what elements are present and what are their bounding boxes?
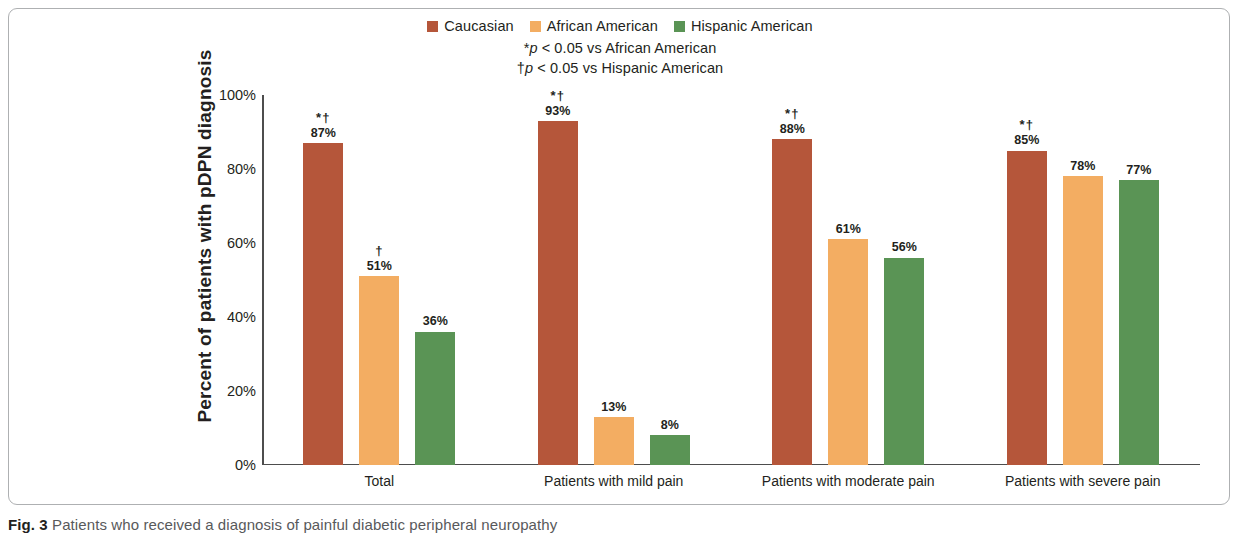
bar-value-severe-african-american: 78% [1070, 159, 1095, 173]
x-label-total: Total [262, 473, 497, 489]
y-tick-100: 100% [219, 87, 256, 103]
y-axis-ticks: 100% 80% 60% 40% 20% 0% [202, 95, 256, 465]
bar-groups: *†87% †51% 36% [262, 95, 1200, 465]
bar-group-total: *†87% †51% 36% [262, 95, 497, 465]
bar-slot-total-caucasian: *†87% [303, 95, 343, 465]
bar-sig-total-african-american: † [367, 244, 392, 259]
bar-slot-severe-caucasian: *†85% [1007, 95, 1047, 465]
bar-slot-severe-hispanic-american: 77% [1119, 95, 1159, 465]
bar-total-african-american[interactable]: †51% [359, 276, 399, 465]
bar-value-mild-african-american: 13% [601, 400, 626, 414]
y-tick-0: 0% [235, 457, 256, 473]
bar-label-moderate-african-american: 61% [836, 222, 861, 236]
figure-caption-number: Fig. 3 [8, 516, 48, 533]
x-label-mild-pain: Patients with mild pain [497, 473, 732, 489]
bar-label-mild-hispanic-american: 8% [661, 418, 679, 432]
plot-area: Percent of patients with pDPN diagnosis … [190, 95, 1200, 495]
bar-moderate-african-american[interactable]: 61% [828, 239, 868, 465]
y-tick-80: 80% [227, 161, 256, 177]
bar-label-mild-caucasian: *†93% [545, 89, 570, 118]
bar-slot-moderate-hispanic-american: 56% [884, 95, 924, 465]
bar-severe-african-american[interactable]: 78% [1063, 176, 1103, 465]
bar-value-severe-hispanic-american: 77% [1126, 163, 1151, 177]
bar-sig-total-caucasian: *† [311, 111, 336, 126]
bar-value-total-hispanic-american: 36% [423, 314, 448, 328]
bar-mild-hispanic-american[interactable]: 8% [650, 435, 690, 465]
bar-label-severe-african-american: 78% [1070, 159, 1095, 173]
bar-label-total-african-american: †51% [367, 244, 392, 273]
bar-total-caucasian[interactable]: *†87% [303, 143, 343, 465]
bar-slot-total-hispanic-american: 36% [415, 95, 455, 465]
bar-group-mild-pain: *†93% 13% 8% [497, 95, 732, 465]
bar-mild-caucasian[interactable]: *†93% [538, 121, 578, 465]
figure-3-root: Caucasian African American Hispanic Amer… [0, 0, 1240, 551]
y-tick-40: 40% [227, 309, 256, 325]
bar-total-hispanic-american[interactable]: 36% [415, 332, 455, 465]
bar-value-severe-caucasian: 85% [1014, 133, 1039, 147]
bar-label-moderate-caucasian: *†88% [780, 107, 805, 136]
figure-caption: Fig. 3 Patients who received a diagnosis… [8, 516, 1208, 535]
bar-label-severe-caucasian: *†85% [1014, 118, 1039, 147]
bar-group-severe-pain: *†85% 78% 77% [966, 95, 1201, 465]
bar-severe-hispanic-american[interactable]: 77% [1119, 180, 1159, 465]
bar-severe-caucasian[interactable]: *†85% [1007, 151, 1047, 466]
bar-slot-mild-african-american: 13% [594, 95, 634, 465]
figure-caption-text: Patients who received a diagnosis of pai… [48, 516, 558, 533]
bar-mild-african-american[interactable]: 13% [594, 417, 634, 465]
bar-value-total-african-american: 51% [367, 259, 392, 273]
y-tick-60: 60% [227, 235, 256, 251]
bar-value-moderate-hispanic-american: 56% [892, 240, 917, 254]
y-tick-20: 20% [227, 383, 256, 399]
x-label-moderate-pain: Patients with moderate pain [731, 473, 966, 489]
x-label-severe-pain: Patients with severe pain [966, 473, 1201, 489]
bar-moderate-hispanic-american[interactable]: 56% [884, 258, 924, 465]
bar-sig-moderate-caucasian: *† [780, 107, 805, 122]
x-axis-labels: Total Patients with mild pain Patients w… [262, 473, 1200, 489]
bar-value-mild-hispanic-american: 8% [661, 418, 679, 432]
bar-value-moderate-caucasian: 88% [780, 122, 805, 136]
bar-value-total-caucasian: 87% [311, 126, 336, 140]
bar-label-mild-african-american: 13% [601, 400, 626, 414]
bar-label-moderate-hispanic-american: 56% [892, 240, 917, 254]
bar-moderate-caucasian[interactable]: *†88% [772, 139, 812, 465]
bar-sig-mild-caucasian: *† [545, 89, 570, 104]
bar-slot-severe-african-american: 78% [1063, 95, 1103, 465]
axis-box: *†87% †51% 36% [262, 95, 1200, 465]
bar-slot-moderate-african-american: 61% [828, 95, 868, 465]
bar-slot-moderate-caucasian: *†88% [772, 95, 812, 465]
bar-slot-mild-caucasian: *†93% [538, 95, 578, 465]
bar-label-total-caucasian: *†87% [311, 111, 336, 140]
bar-label-severe-hispanic-american: 77% [1126, 163, 1151, 177]
bar-value-mild-caucasian: 93% [545, 104, 570, 118]
bar-sig-severe-caucasian: *† [1014, 118, 1039, 133]
bar-slot-total-african-american: †51% [359, 95, 399, 465]
bar-label-total-hispanic-american: 36% [423, 314, 448, 328]
bar-group-moderate-pain: *†88% 61% 56% [731, 95, 966, 465]
bar-slot-mild-hispanic-american: 8% [650, 95, 690, 465]
bar-value-moderate-african-american: 61% [836, 222, 861, 236]
